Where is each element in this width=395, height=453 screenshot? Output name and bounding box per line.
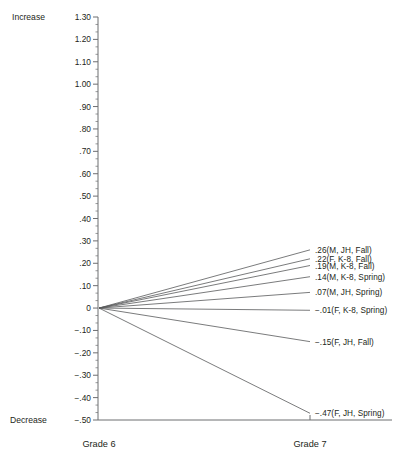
y-tick-label: .80 [57, 124, 91, 133]
y-tick-label: .70 [57, 147, 91, 156]
x-axis-label-grade6: Grade 6 [82, 439, 115, 449]
y-axis-ticks [93, 17, 98, 420]
series-end-label: .07(M, JH, Spring) [315, 288, 382, 297]
y-tick-label: 0 [57, 304, 91, 313]
increase-annotation: Increase [12, 12, 45, 22]
series-line [99, 308, 310, 342]
y-tick-label: .20 [57, 259, 91, 268]
line-chart: 1.301.201.101.00.90.80.70.60.50.40.30.20… [0, 0, 395, 453]
y-tick-label: .30 [57, 236, 91, 245]
x-axis-label-grade7: Grade 7 [293, 439, 326, 449]
series-line [99, 250, 310, 308]
series-line [99, 308, 310, 310]
decrease-annotation: Decrease [10, 415, 47, 425]
series-end-label: .19(M, K-8, Fall) [315, 261, 375, 270]
y-tick-label: .50 [57, 192, 91, 201]
y-tick-label: .90 [57, 102, 91, 111]
series-line [99, 277, 310, 308]
y-tick-label: .60 [57, 169, 91, 178]
series-line [99, 292, 310, 308]
series-end-label: .14(M, K-8, Spring) [315, 272, 385, 281]
y-tick-label: .10 [57, 281, 91, 290]
series-end-label: .26(M, JH, Fall) [315, 245, 372, 254]
series-line [99, 308, 310, 413]
y-tick-label: 1.10 [57, 57, 91, 66]
y-tick-label: 1.30 [57, 13, 91, 22]
series-line [99, 266, 310, 309]
chart-canvas [0, 0, 395, 453]
series-end-label: −.15(F, JH, Fall) [315, 337, 374, 346]
y-tick-label: −.40 [57, 393, 91, 402]
y-tick-label: .40 [57, 214, 91, 223]
y-tick-label: −.50 [57, 416, 91, 425]
series-line [99, 259, 310, 308]
series-lines [99, 250, 310, 413]
y-tick-label: 1.00 [57, 80, 91, 89]
y-tick-label: −.20 [57, 348, 91, 357]
y-tick-label: 1.20 [57, 35, 91, 44]
series-end-label: −.47(F, JH, Spring) [315, 409, 384, 418]
series-end-label: −.01(F, K-8, Spring) [315, 306, 387, 315]
y-tick-label: −.30 [57, 371, 91, 380]
y-tick-label: −.10 [57, 326, 91, 335]
